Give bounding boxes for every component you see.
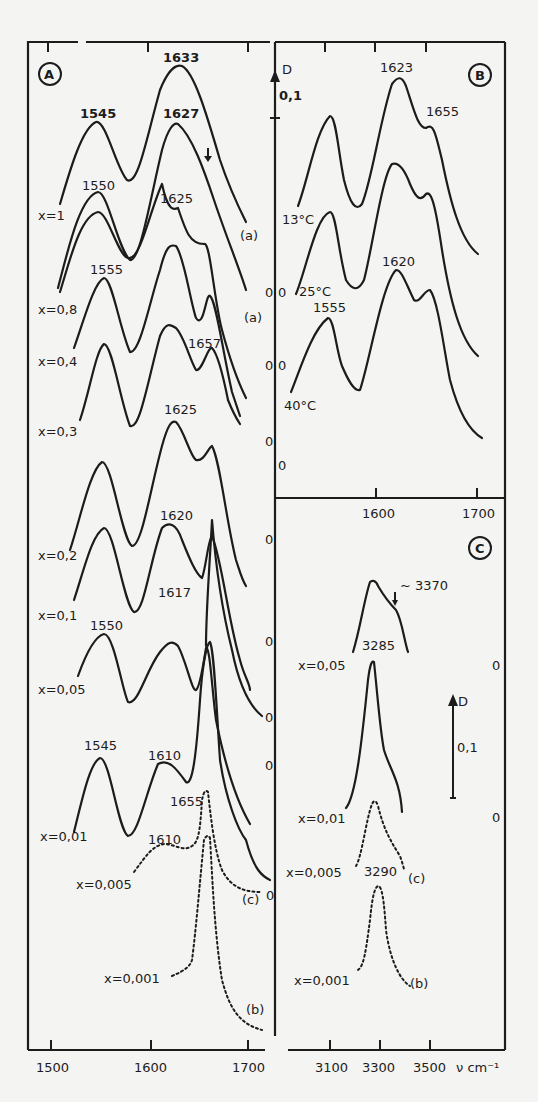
panel-c-text: ~ 3370 3285 3290 x=0,05 x=0,01 x=0,005 x…: [286, 578, 448, 991]
zero-marker: 0: [265, 758, 273, 773]
series-label: x=0,001: [104, 971, 160, 986]
peak-label: 1625: [160, 191, 193, 206]
tick-label: 3100: [315, 1060, 348, 1075]
scale-bar-value: 0,1: [457, 740, 478, 755]
zero-marker: 0: [492, 810, 500, 825]
peak-label: 1555: [90, 262, 123, 277]
series-label: x=0,005: [286, 865, 342, 880]
curve-tag: (a): [240, 228, 258, 243]
curve-x-0-05: [78, 634, 250, 824]
series-label: x=0,05: [38, 682, 86, 697]
series-label: x=0,4: [38, 354, 77, 369]
x-axis-unit: ν cm⁻¹: [456, 1060, 499, 1075]
zero-marker: 0: [265, 285, 273, 300]
curve-x-0-8: [58, 124, 246, 290]
ir-spectra-figure: 1500 1600 1700 A: [0, 0, 538, 1102]
series-label: 13°C: [282, 212, 314, 227]
zero-marker: 0: [265, 710, 273, 725]
panel-a-curve-tags: (a) (a) (c) (b): [240, 228, 264, 1017]
series-label: x=0,1: [38, 608, 77, 623]
tick-label: 3500: [413, 1060, 446, 1075]
series-label: 40°C: [284, 398, 316, 413]
zero-marker: 0: [265, 532, 273, 547]
peak-label: 3290: [364, 864, 397, 879]
tick-label: 1600: [362, 506, 395, 521]
scale-bar-label: D: [458, 694, 468, 709]
panel-c-x-tick-labels: 3100 3300 3500 ν cm⁻¹: [315, 1060, 499, 1075]
peak-label: 1555: [313, 300, 346, 315]
zero-marker: 0: [265, 634, 273, 649]
panel-label-text: B: [475, 68, 485, 83]
peak-label: 1627: [163, 106, 199, 121]
y-scale-label: 0,1: [279, 88, 302, 103]
panel-a-series-labels: x=1 x=0,8 x=0,4 x=0,3 x=0,2 x=0,1 x=0,05…: [38, 208, 160, 986]
zero-marker: 0: [265, 358, 273, 373]
panel-c-label: C: [469, 537, 491, 559]
tick-label: 1700: [462, 506, 495, 521]
zero-marker: 0: [278, 458, 286, 473]
curve-c-x-0-005: [356, 801, 404, 870]
curve-c-x-0-01: [346, 662, 402, 812]
peak-label: 1620: [382, 254, 415, 269]
tick-label: 1600: [134, 1060, 167, 1075]
peak-label: 1655: [426, 104, 459, 119]
zero-marker: 0: [278, 358, 286, 373]
panel-a-label: A: [39, 63, 61, 85]
zero-marker: 0: [278, 285, 286, 300]
series-label: x=0,2: [38, 548, 77, 563]
peak-label: 1610: [148, 832, 181, 847]
tick-label: 1700: [232, 1060, 265, 1075]
peak-label: 1623: [380, 60, 413, 75]
curve-x-0-001: [172, 836, 262, 1030]
curve-tag: (a): [244, 310, 262, 325]
peak-label: 1545: [84, 738, 117, 753]
panel-b-text: 1623 1655 1620 1555 13°C 25°C 40°C 1600 …: [282, 60, 495, 521]
series-label: x=0,01: [40, 829, 88, 844]
peak-label: 1550: [82, 178, 115, 193]
zero-marker: 0: [265, 434, 273, 449]
zero-marker: 0: [266, 888, 274, 903]
curve-tag: (b): [246, 1002, 264, 1017]
panel-label-text: A: [44, 67, 54, 82]
peak-label: 1620: [160, 508, 193, 523]
peak-label: 1657: [188, 336, 221, 351]
panel-bc-frame: [275, 42, 505, 1050]
arrow-up-icon: [448, 694, 458, 706]
peak-label: 3285: [362, 638, 395, 653]
peak-label: 1655: [170, 794, 203, 809]
series-label: x=1: [38, 208, 65, 223]
series-label: x=0,005: [76, 877, 132, 892]
series-label: x=0,01: [298, 811, 346, 826]
curve-tag: (c): [242, 892, 259, 907]
peak-label: 1550: [90, 618, 123, 633]
tick-label: 3300: [362, 1060, 395, 1075]
curve-tag: (b): [410, 976, 428, 991]
curve-tag: (c): [408, 871, 425, 886]
peak-label: 1625: [164, 402, 197, 417]
series-label: 25°C: [299, 284, 331, 299]
tick-label: 1500: [36, 1060, 69, 1075]
y-axis-label: D: [282, 62, 292, 77]
series-label: x=0,3: [38, 424, 77, 439]
panel-label-text: C: [475, 541, 485, 556]
curve-c-x-0-001: [358, 886, 410, 986]
panel-a-peak-labels: 1633 1545 1627 1550 1625 1555 1657 1625 …: [80, 50, 221, 847]
peak-label: 1610: [148, 748, 181, 763]
zero-marker: 0: [492, 658, 500, 673]
peak-label: 1633: [163, 50, 199, 65]
peak-label: 1545: [80, 106, 116, 121]
series-label: x=0,05: [298, 658, 346, 673]
panel-c-scale-bar: D 0,1: [448, 694, 478, 798]
arrow-up-icon: [270, 70, 280, 82]
peak-label: ~ 3370: [400, 578, 448, 593]
series-label: x=0,001: [294, 973, 350, 988]
peak-label: 1617: [158, 585, 191, 600]
series-label: x=0,8: [38, 302, 77, 317]
panel-a-x-tick-labels: 1500 1600 1700: [36, 1060, 265, 1075]
panel-b-label: B: [469, 64, 491, 86]
arrow-head-icon: [204, 156, 212, 162]
